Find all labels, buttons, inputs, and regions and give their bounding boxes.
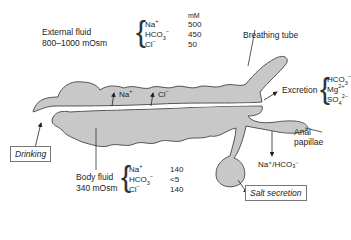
external-fluid-title: External fluid — [42, 27, 91, 37]
ext-value-cl: 50 — [188, 40, 197, 50]
salt-secretion-label: Salt secretion — [245, 185, 307, 201]
ext-value-hco3: 450 — [188, 30, 201, 40]
body-value-cl: 140 — [170, 185, 183, 195]
drinking-label: Drinking — [10, 146, 51, 162]
gut-na-label: Na+ — [119, 90, 132, 100]
gut-cl-label: Cl− — [158, 90, 169, 100]
ext-ion-hco3: HCO3− — [145, 30, 169, 40]
body-ion-na: Na+ — [129, 165, 142, 175]
body-value-na: 140 — [170, 165, 183, 175]
excretion-label: Excretion — [282, 85, 317, 95]
ext-ion-cl: Cl− — [145, 40, 156, 50]
ext-ion-na: Na+ — [145, 20, 158, 30]
body-fluid-osmolarity: 340 mOsm — [76, 183, 118, 193]
anal-papillae-label-line1: Anal — [294, 127, 311, 137]
breathing-tube-label: Breathing tube — [243, 30, 298, 40]
drinking-arrow — [35, 123, 41, 148]
body-ion-hco3: HCO3− — [129, 175, 153, 185]
papillae-flux-label: Na⁺/HCO₃⁻ — [258, 160, 299, 170]
exc-ion-so4: SO42− — [327, 95, 348, 105]
excretion-arrow — [264, 92, 277, 100]
body-ion-cl: Cl− — [129, 185, 140, 195]
body-fluid-title: Body fluid — [76, 172, 113, 182]
body-value-hco3: <5 — [170, 175, 179, 185]
ext-value-na: 500 — [188, 20, 201, 30]
external-fluid-osmolarity: 800–1000 mOsm — [42, 38, 107, 48]
anal-papillae-label-line2: papillae — [294, 137, 323, 147]
